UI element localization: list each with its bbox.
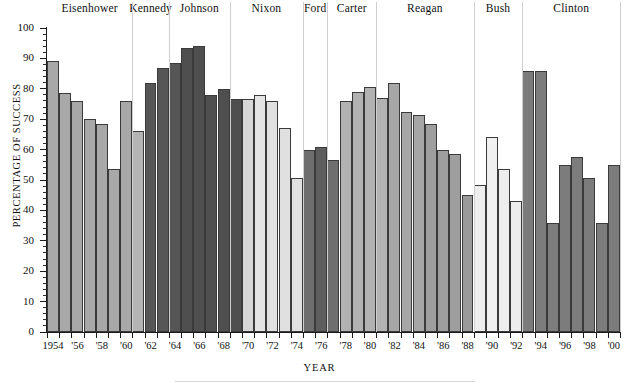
bar-2000 (608, 165, 620, 332)
bar-1999 (596, 223, 608, 332)
bar-1987 (449, 154, 461, 332)
bar-1972 (266, 101, 278, 332)
x-tick-1959 (108, 332, 109, 338)
bar-1969 (230, 99, 242, 332)
plot-area (47, 28, 620, 332)
y-minor-tick-14 (43, 289, 48, 290)
x-tick-1976 (315, 332, 316, 338)
y-minor-tick-6 (43, 313, 48, 314)
x-tick-1960 (120, 332, 121, 338)
y-minor-tick-64 (43, 137, 48, 138)
x-tick-1975 (303, 332, 304, 338)
y-minor-tick-68 (43, 125, 48, 126)
x-tick-1999 (596, 332, 597, 338)
bar-1998 (583, 178, 595, 332)
y-minor-tick-4 (43, 319, 48, 320)
y-minor-tick-54 (43, 167, 48, 168)
x-tick-1994 (535, 332, 536, 338)
bar-1984 (413, 115, 425, 332)
x-tick-1956 (71, 332, 72, 338)
bar-1974 (291, 178, 303, 332)
bar-1989 (474, 185, 486, 332)
x-tick-1993 (522, 332, 523, 338)
bar-1980 (364, 87, 376, 332)
y-tick-40 (40, 210, 47, 211)
bar-1981 (376, 98, 388, 332)
bar-1992 (510, 201, 522, 332)
y-tick-30 (40, 240, 47, 241)
x-tick-1970 (242, 332, 243, 338)
y-minor-tick-88 (43, 64, 48, 65)
bar-1960 (120, 101, 132, 332)
bar-1956 (71, 101, 83, 332)
bar-1993 (522, 71, 534, 332)
x-tick-1979 (352, 332, 353, 338)
bar-1995 (547, 223, 559, 332)
x-tick-1958 (96, 332, 97, 338)
y-minor-tick-72 (43, 113, 48, 114)
bar-1961 (132, 131, 144, 332)
y-minor-tick-62 (43, 143, 48, 144)
x-tick-1973 (279, 332, 280, 338)
bar-1964 (169, 63, 181, 332)
x-tick-1955 (59, 332, 60, 338)
x-tick-1977 (327, 332, 328, 338)
y-tick-70 (40, 119, 47, 120)
bar-1958 (96, 124, 108, 332)
y-minor-tick-16 (43, 283, 48, 284)
x-axis-title: YEAR (0, 362, 639, 373)
x-tick-1997 (571, 332, 572, 338)
y-minor-tick-94 (43, 46, 48, 47)
y-minor-tick-58 (43, 155, 48, 156)
y-tick-label-20: 20 (8, 264, 34, 276)
x-tick-1974 (291, 332, 292, 338)
bar-1985 (425, 124, 437, 332)
x-tick-1966 (193, 332, 194, 338)
y-tick-0 (40, 332, 47, 333)
bar-1968 (218, 89, 230, 332)
presidential-success-bar-chart: EisenhowerKennedyJohnsonNixonFordCarterR… (0, 0, 639, 385)
x-tick-1988 (462, 332, 463, 338)
bar-1997 (571, 157, 583, 332)
y-minor-tick-76 (43, 100, 48, 101)
bar-1970 (242, 99, 254, 332)
x-tick-1981 (376, 332, 377, 338)
bar-1963 (157, 68, 169, 332)
x-tick-1986 (437, 332, 438, 338)
y-minor-tick-24 (43, 259, 48, 260)
presidency-divider-bush (474, 2, 475, 332)
y-minor-tick-44 (43, 198, 48, 199)
y-minor-tick-86 (43, 70, 48, 71)
x-tick-1989 (474, 332, 475, 338)
y-minor-tick-8 (43, 307, 48, 308)
x-tick-1990 (486, 332, 487, 338)
y-tick-10 (40, 301, 47, 302)
x-tick-1998 (583, 332, 584, 338)
bar-1979 (352, 92, 364, 332)
y-minor-tick-34 (43, 228, 48, 229)
y-minor-tick-12 (43, 295, 48, 296)
x-tick-1963 (157, 332, 158, 338)
x-tick-1954 (47, 332, 48, 338)
bar-1986 (437, 150, 449, 332)
presidency-divider-ford (303, 2, 304, 332)
x-tick-1962 (145, 332, 146, 338)
y-tick-90 (40, 58, 47, 59)
bar-1954 (47, 61, 59, 332)
bar-1965 (181, 48, 193, 332)
x-tick-end (620, 332, 621, 338)
bar-1994 (535, 71, 547, 332)
x-tick-1972 (266, 332, 267, 338)
y-minor-tick-38 (43, 216, 48, 217)
y-tick-50 (40, 180, 47, 181)
y-minor-tick-92 (43, 52, 48, 53)
y-minor-tick-82 (43, 82, 48, 83)
x-tick-1957 (84, 332, 85, 338)
bar-1966 (193, 46, 205, 332)
y-minor-tick-28 (43, 246, 48, 247)
y-minor-tick-78 (43, 94, 48, 95)
presidency-divider-end (620, 2, 621, 332)
x-tick-label-2000: '00 (594, 340, 634, 351)
bar-1978 (340, 101, 352, 332)
y-minor-tick-26 (43, 252, 48, 253)
